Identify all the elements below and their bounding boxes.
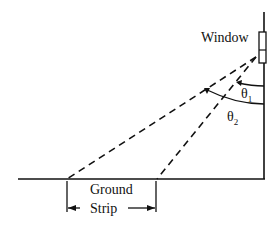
theta1-label: θ1 [241, 87, 252, 104]
theta2-arc [205, 89, 264, 104]
ground-strip-diagram: Window θ1 θ2 Ground Strip [0, 0, 279, 231]
window-rect [259, 32, 266, 63]
ground-strip-label-line2: Strip [90, 202, 117, 216]
theta2-label: θ2 [227, 110, 238, 127]
window-label: Window [201, 31, 249, 45]
sight-line-near [157, 57, 256, 179]
ground-strip-label-line1: Ground [90, 183, 133, 197]
